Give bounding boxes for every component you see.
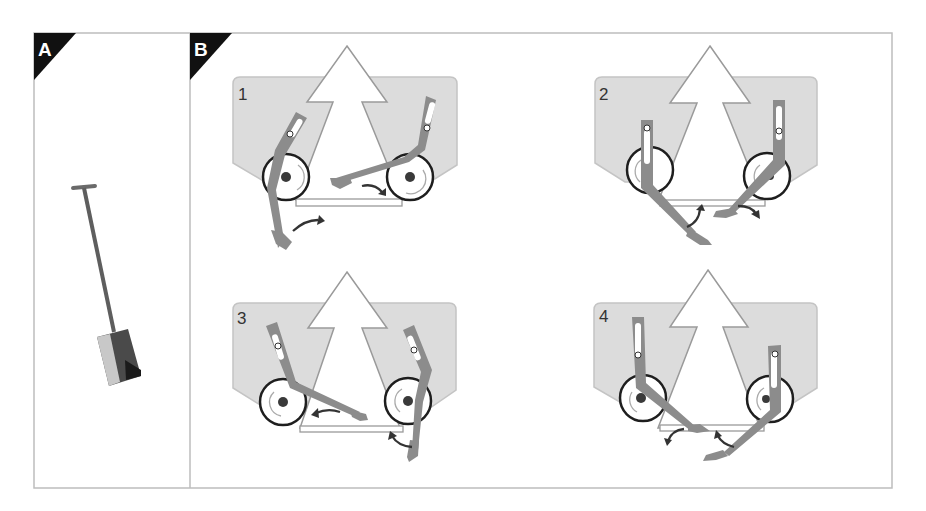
motion-arrow: [738, 206, 756, 214]
blade-tip: [271, 230, 292, 250]
blade-tip: [686, 228, 712, 245]
panel-b-letter: B: [194, 39, 208, 60]
step-label: 4: [599, 307, 608, 326]
motion-arrow: [392, 436, 412, 447]
step-label: 1: [238, 85, 247, 104]
bottom-plate: [296, 199, 402, 206]
adjust-slot: [635, 323, 641, 355]
panel-a: A: [34, 33, 141, 386]
step-1: 1: [233, 46, 457, 250]
step-label: 2: [599, 85, 608, 104]
step-label: 3: [237, 309, 246, 328]
bottom-plate: [660, 200, 765, 206]
wheel-hub: [762, 395, 770, 403]
adjust-slot: [644, 130, 650, 164]
pivot-pin: [411, 347, 417, 353]
pivot-pin: [424, 125, 430, 131]
pivot-pin: [644, 125, 650, 131]
wheel-hub: [281, 172, 291, 182]
pivot-pin: [772, 351, 778, 357]
pivot-pin: [287, 131, 293, 137]
motion-arrowhead: [664, 438, 672, 446]
adjust-slot: [776, 106, 782, 140]
bottom-plate: [300, 426, 403, 432]
adjust-slot: [771, 352, 777, 388]
step-2: 2: [595, 46, 817, 245]
step-3: 3: [233, 272, 456, 462]
step-4: 4: [594, 270, 817, 461]
panel-a-letter: A: [38, 39, 52, 60]
wheel-hub: [278, 397, 288, 407]
motion-arrow: [293, 220, 318, 231]
blade-tip: [703, 450, 728, 461]
panel-b: B 1: [190, 33, 817, 462]
wheel-hub: [405, 172, 415, 182]
spade-icon: [73, 186, 141, 386]
blade-tip: [407, 440, 419, 462]
motion-arrow: [718, 436, 734, 447]
motion-arrowhead: [317, 215, 325, 225]
wheel-hub: [403, 396, 413, 406]
diagram-figure: A B 1: [0, 0, 926, 511]
pivot-pin: [635, 352, 641, 358]
pivot-pin: [275, 343, 281, 349]
blade-tip: [713, 208, 738, 218]
pivot-pin: [776, 128, 782, 134]
